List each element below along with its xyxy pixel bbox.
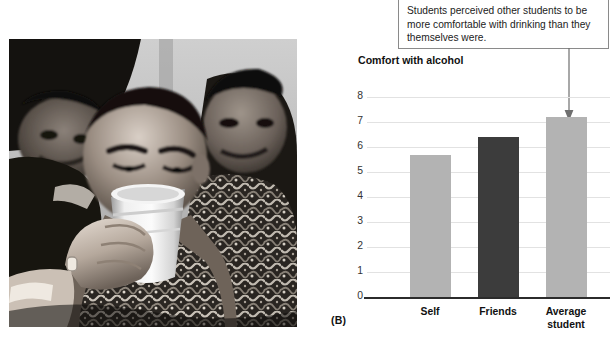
chart-plot-area <box>367 97 610 297</box>
y-axis-tick-label: 5 <box>347 165 363 176</box>
x-axis-tick-label: Average student <box>528 305 604 331</box>
chart-bar <box>410 155 451 298</box>
chart-bar <box>546 117 587 297</box>
y-axis-tick-label: 4 <box>347 190 363 201</box>
y-axis-tick-label: 7 <box>347 115 363 126</box>
y-axis-tick-label: 1 <box>347 265 363 276</box>
photograph <box>9 39 297 327</box>
callout-text: Students perceived other students to be … <box>407 4 603 45</box>
y-axis-tick-label: 3 <box>347 215 363 226</box>
y-axis-tick-label: 6 <box>347 140 363 151</box>
chart-axis-title: Comfort with alcohol <box>358 54 478 67</box>
photograph-image <box>9 39 297 327</box>
chart-baseline-axis <box>364 297 610 299</box>
bar-chart: Comfort with alcohol 012345678 SelfFrien… <box>331 50 610 339</box>
x-axis-tick-label: Friends <box>460 305 536 318</box>
y-axis-tick-label: 2 <box>347 240 363 251</box>
y-axis-tick-label: 8 <box>347 90 363 101</box>
x-axis-tick-label: Self <box>392 305 468 318</box>
y-axis-tick-label: 0 <box>347 290 363 301</box>
chart-bar <box>478 137 519 297</box>
